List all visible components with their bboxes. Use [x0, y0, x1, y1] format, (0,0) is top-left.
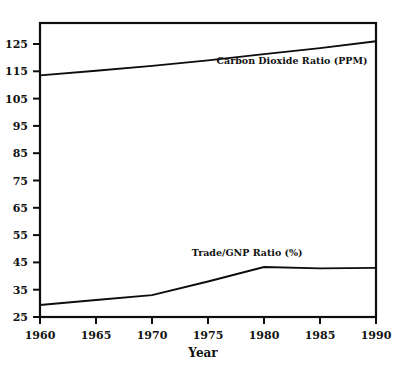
y-tick-label: 105 — [5, 93, 28, 106]
x-tick-label: 1975 — [193, 329, 224, 342]
series-annotation-label: Trade/GNP Ratio (%) — [192, 247, 303, 258]
series-annotation-label: Carbon Dioxide Ratio (PPM) — [216, 55, 367, 66]
y-tick-label: 25 — [13, 311, 28, 324]
data-series-lines — [40, 41, 376, 305]
x-tick-label: 1965 — [81, 329, 112, 342]
line-chart: 2535455565758595105115125 19601965197019… — [0, 0, 398, 376]
x-tick-label: 1970 — [137, 329, 168, 342]
y-tick-label: 55 — [13, 229, 28, 242]
y-tick-label: 45 — [13, 256, 28, 269]
y-tick-label: 65 — [13, 202, 28, 215]
y-tick-label: 85 — [13, 147, 28, 160]
x-axis-tick-labels: 1960196519701975198019851990 — [25, 329, 392, 342]
y-tick-label: 35 — [13, 284, 28, 297]
x-axis-title: Year — [187, 346, 218, 360]
chart-container: 2535455565758595105115125 19601965197019… — [0, 0, 398, 376]
series-inline-labels: Carbon Dioxide Ratio (PPM)Trade/GNP Rati… — [192, 55, 368, 257]
y-axis-tick-labels: 2535455565758595105115125 — [5, 38, 28, 324]
x-tick-label: 1985 — [305, 329, 336, 342]
y-tick-label: 95 — [13, 120, 28, 133]
y-tick-label: 125 — [5, 38, 28, 51]
y-tick-label: 75 — [13, 175, 28, 188]
series-line — [40, 267, 376, 305]
x-tick-label: 1980 — [249, 329, 280, 342]
plot-frame — [40, 23, 376, 317]
x-tick-label: 1960 — [25, 329, 56, 342]
x-tick-label: 1990 — [361, 329, 392, 342]
y-tick-label: 115 — [5, 65, 28, 78]
